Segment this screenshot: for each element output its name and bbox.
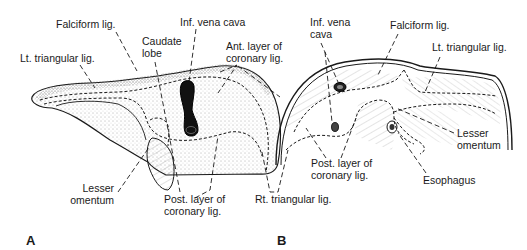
label-post-coronary-b: Post. layer of coronary lig.	[311, 157, 372, 181]
label-post-coronary-a: Post. layer of coronary lig.	[164, 193, 225, 217]
label-lesser-omentum-b: Lesser omentum	[457, 127, 501, 151]
label-ant-coronary-a: Ant. layer of coronary lig.	[226, 40, 283, 64]
label-ivc-b: Inf. vena cava	[310, 16, 350, 40]
label-ivc-a: Inf. vena cava	[180, 16, 245, 28]
leader-post-coronary-b	[306, 128, 326, 158]
label-caudate-lobe: Caudate lobe	[142, 35, 182, 59]
leader-falciform-b	[378, 34, 398, 75]
anatomy-figure: Falciform lig. Inf. vena cava Caudate lo…	[0, 0, 527, 250]
leader-esophagus	[398, 133, 426, 173]
label-lesser-omentum-a: Lesser omentum	[70, 182, 114, 206]
label-falciform-b: Falciform lig.	[390, 19, 450, 31]
panel-b-diaphragm	[276, 34, 512, 173]
panel-label-b: B	[277, 233, 286, 248]
label-falciform-a: Falciform lig.	[56, 18, 116, 30]
diagram-drawing	[0, 0, 527, 250]
label-rt-triangular: Rt. triangular lig.	[255, 193, 331, 205]
panel-label-a: A	[26, 233, 35, 248]
label-esophagus: Esophagus	[423, 174, 476, 186]
leader-falciform-a	[116, 32, 137, 71]
label-lt-triangular-b: Lt. triangular lig.	[432, 41, 507, 53]
label-lt-triangular-a: Lt. triangular lig.	[20, 52, 95, 64]
